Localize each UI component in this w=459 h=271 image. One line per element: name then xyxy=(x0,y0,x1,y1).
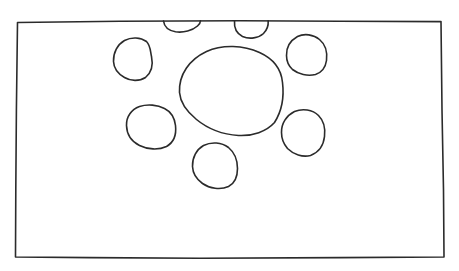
sketch-canvas: large central circleupper-left circlelef… xyxy=(0,0,459,271)
hand-drawn-diagram: large central circleupper-left circlelef… xyxy=(0,0,459,271)
paper-background xyxy=(0,0,459,271)
